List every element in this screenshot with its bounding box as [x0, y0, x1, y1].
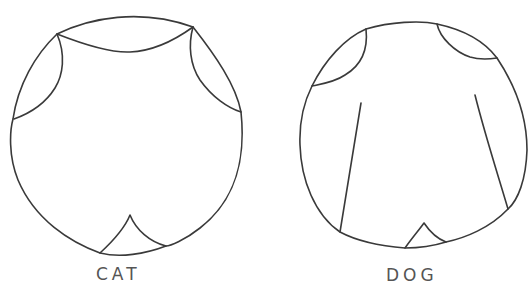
diagram-canvas — [0, 0, 529, 294]
cat-figure — [11, 17, 243, 256]
dog-right-leg-line — [475, 95, 508, 209]
dog-outline — [300, 22, 527, 248]
dog-left-ear-arc — [312, 29, 366, 86]
dog-label: DOG — [386, 265, 438, 285]
cat-label: CAT — [96, 264, 141, 284]
dog-figure — [300, 22, 527, 248]
cat-bottom-notch — [100, 215, 166, 253]
cat-left-ear-arc — [14, 34, 63, 119]
dog-right-ear-arc — [437, 24, 497, 59]
cat-right-ear-arc — [190, 27, 241, 112]
dog-left-leg-line — [340, 103, 361, 232]
cat-top-arc — [57, 27, 193, 52]
